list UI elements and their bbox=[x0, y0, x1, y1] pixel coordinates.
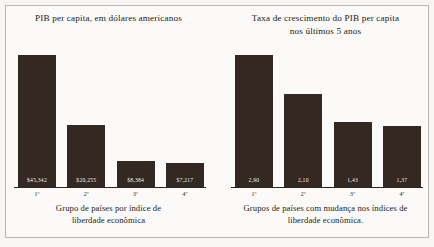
right-chart-x-axis bbox=[231, 187, 423, 188]
bar-slot: 1,43 bbox=[334, 48, 372, 187]
left-chart-caption: Grupo de países por índice de liberdade … bbox=[14, 203, 203, 226]
x-tick-label: 2º bbox=[67, 191, 105, 197]
x-tick-label: 3º bbox=[334, 191, 372, 197]
bar: 1,37 bbox=[383, 126, 421, 187]
bar-slot: $7,217 bbox=[166, 48, 204, 187]
bar-value-label: $45,342 bbox=[27, 177, 47, 187]
bar: 1,43 bbox=[334, 122, 372, 187]
right-chart-plot-area: 2,90 2,10 1,43 bbox=[235, 48, 421, 188]
left-chart-bars: $45,342 $20,255 $8,384 bbox=[18, 48, 204, 187]
x-tick-label: 1º bbox=[235, 191, 273, 197]
bar-value-label: 2,90 bbox=[249, 177, 260, 187]
left-chart-x-axis bbox=[14, 187, 206, 188]
figure-page: PIB per capita, em dólares americanos $4… bbox=[0, 0, 434, 247]
right-chart-tick-labels: 1º 2º 3º 4º bbox=[235, 191, 421, 197]
left-chart-caption-line2: liberdade econômica bbox=[14, 215, 203, 227]
left-chart-caption-line1: Grupo de países por índice de bbox=[14, 203, 203, 215]
bar-value-label: 1,43 bbox=[347, 177, 358, 187]
bar-slot: 2,90 bbox=[235, 48, 273, 187]
charts-container: PIB per capita, em dólares americanos $4… bbox=[0, 0, 434, 247]
right-chart-caption: Grupos de países com mudança nos índices… bbox=[231, 203, 420, 226]
bar-slot: $20,255 bbox=[67, 48, 105, 187]
x-tick-label: 1º bbox=[18, 191, 56, 197]
bar-slot: $8,384 bbox=[117, 48, 155, 187]
bar: $8,384 bbox=[117, 161, 155, 187]
bar-value-label: 2,10 bbox=[298, 177, 309, 187]
x-tick-label: 4º bbox=[383, 191, 421, 197]
bar-value-label: 1,37 bbox=[397, 177, 408, 187]
bar: $20,255 bbox=[67, 125, 105, 187]
bar-slot: 2,10 bbox=[284, 48, 322, 187]
bar-slot: 1,37 bbox=[383, 48, 421, 187]
bar: $45,342 bbox=[18, 55, 56, 187]
x-tick-label: 4º bbox=[166, 191, 204, 197]
right-chart-bars: 2,90 2,10 1,43 bbox=[235, 48, 421, 187]
right-chart-title-line1: Taxa de crescimento do PIB per capita bbox=[229, 12, 422, 25]
bar: 2,90 bbox=[235, 55, 273, 187]
right-chart-panel: Taxa de crescimento do PIB per capita no… bbox=[217, 0, 434, 247]
x-tick-label: 3º bbox=[117, 191, 155, 197]
bar-value-label: $8,384 bbox=[127, 177, 144, 187]
right-chart-title: Taxa de crescimento do PIB per capita no… bbox=[229, 12, 422, 37]
bar-slot: $45,342 bbox=[18, 48, 56, 187]
bar-value-label: $7,217 bbox=[177, 177, 194, 187]
left-chart-title: PIB per capita, em dólares americanos bbox=[12, 12, 205, 25]
left-chart-tick-labels: 1º 2º 3º 4º bbox=[18, 191, 204, 197]
x-tick-label: 2º bbox=[284, 191, 322, 197]
right-chart-caption-line1: Grupos de países com mudança nos índices… bbox=[231, 203, 420, 215]
bar: $7,217 bbox=[166, 163, 204, 187]
right-chart-caption-line2: liberdade econômica. bbox=[231, 215, 420, 227]
bar-value-label: $20,255 bbox=[76, 177, 96, 187]
left-chart-plot-area: $45,342 $20,255 $8,384 bbox=[18, 48, 204, 188]
bar: 2,10 bbox=[284, 94, 322, 187]
right-chart-title-line2: nos últimos 5 anos bbox=[229, 25, 422, 38]
left-chart-panel: PIB per capita, em dólares americanos $4… bbox=[0, 0, 217, 247]
